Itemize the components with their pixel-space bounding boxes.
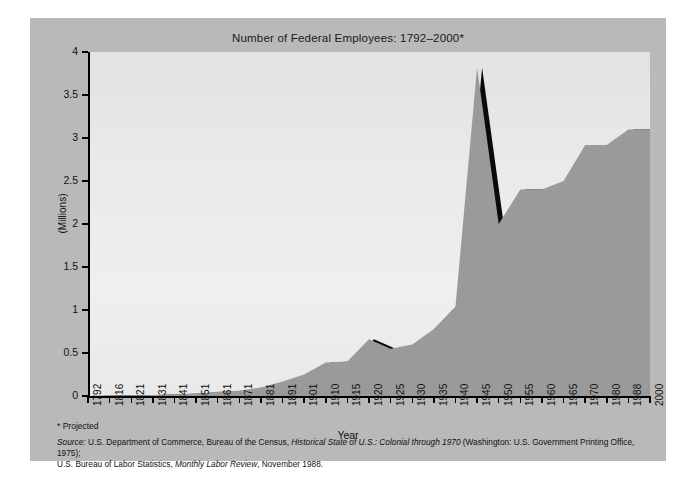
x-tick-label: 1945 <box>481 384 492 406</box>
x-tick <box>584 397 586 403</box>
x-tick-label: 1861 <box>222 384 233 406</box>
x-tick <box>455 397 457 403</box>
x-tick <box>347 397 349 403</box>
y-tick <box>82 51 88 53</box>
x-tick-label: 1881 <box>265 384 276 406</box>
x-tick-label: 1988 <box>632 384 643 406</box>
y-tick <box>82 352 88 354</box>
y-tick-label: 0 <box>38 389 78 401</box>
y-tick <box>82 223 88 225</box>
source-label: Source: <box>57 437 86 447</box>
x-tick <box>649 397 651 403</box>
x-tick-label: 1935 <box>438 384 449 406</box>
x-tick <box>109 397 111 403</box>
x-tick-label: 1831 <box>157 384 168 406</box>
source-text-d: , November 1988. <box>257 459 323 469</box>
x-tick <box>87 397 89 403</box>
x-tick-label: 1955 <box>524 384 535 406</box>
x-tick <box>239 397 241 403</box>
x-tick-label: 1910 <box>330 384 341 406</box>
chart-panel: Number of Federal Employees: 1792–2000* … <box>30 18 666 461</box>
x-tick <box>498 397 500 403</box>
x-tick <box>195 397 197 403</box>
x-tick <box>390 397 392 403</box>
x-tick-label: 1925 <box>395 384 406 406</box>
y-tick-label: 4 <box>38 45 78 57</box>
plot-area <box>88 52 650 396</box>
x-tick <box>174 397 176 403</box>
x-tick <box>282 397 284 403</box>
x-tick-label: 1980 <box>611 384 622 406</box>
chart-page: Number of Federal Employees: 1792–2000* … <box>0 0 690 484</box>
x-tick-label: 1965 <box>568 384 579 406</box>
x-tick-label: 1970 <box>589 384 600 406</box>
x-tick <box>606 397 608 403</box>
x-tick <box>412 397 414 403</box>
y-tick-label: 3 <box>38 131 78 143</box>
x-tick-label: 2000 <box>654 384 665 406</box>
y-tick <box>82 180 88 182</box>
y-axis-caption: (Millions) <box>57 179 68 249</box>
y-tick-label: 3.5 <box>38 88 78 100</box>
x-tick <box>476 397 478 403</box>
x-tick <box>563 397 565 403</box>
source-title-2: Monthly Labor Review <box>175 459 257 469</box>
x-tick <box>325 397 327 403</box>
y-tick <box>82 309 88 311</box>
y-tick-label: 0.5 <box>38 346 78 358</box>
x-tick-label: 1816 <box>114 384 125 406</box>
source-title-1: Historical State of U.S.: Colonial throu… <box>291 437 460 447</box>
chart-title: Number of Federal Employees: 1792–2000* <box>30 32 666 44</box>
y-tick-label: 1.5 <box>38 260 78 272</box>
x-tick-label: 1940 <box>459 384 470 406</box>
x-tick <box>628 397 630 403</box>
x-tick <box>303 397 305 403</box>
x-tick <box>433 397 435 403</box>
x-tick-label: 1901 <box>308 384 319 406</box>
y-axis-labels: 00.511.522.533.54 <box>30 18 78 418</box>
y-tick <box>82 94 88 96</box>
source-text-a: U.S. Department of Commerce, Bureau of t… <box>86 437 292 447</box>
x-tick-label: 1871 <box>243 384 254 406</box>
x-tick-label: 1891 <box>287 384 298 406</box>
y-tick <box>82 137 88 139</box>
source-text-c: U.S. Bureau of Labor Statistics, <box>57 459 175 469</box>
x-tick-label: 1960 <box>546 384 557 406</box>
area-series <box>88 52 650 396</box>
x-tick-label: 1930 <box>416 384 427 406</box>
source-line-1: Source: U.S. Department of Commerce, Bur… <box>57 437 657 459</box>
x-tick-label: 1915 <box>351 384 362 406</box>
x-tick <box>131 397 133 403</box>
x-tick-label: 1851 <box>200 384 211 406</box>
x-tick <box>520 397 522 403</box>
x-tick <box>217 397 219 403</box>
x-tick <box>541 397 543 403</box>
x-tick <box>368 397 370 403</box>
x-tick <box>152 397 154 403</box>
x-tick-label: 1792 <box>92 384 103 406</box>
x-tick-label: 1841 <box>178 384 189 406</box>
projected-note: * Projected <box>57 421 657 431</box>
x-tick-label: 1950 <box>503 384 514 406</box>
y-axis-line <box>88 52 90 397</box>
x-tick <box>260 397 262 403</box>
y-tick-label: 1 <box>38 303 78 315</box>
x-tick-label: 1920 <box>373 384 384 406</box>
area-fill <box>88 67 650 396</box>
footnotes: * Projected Source: U.S. Department of C… <box>57 421 657 470</box>
x-tick-label: 1821 <box>135 384 146 406</box>
y-tick <box>82 266 88 268</box>
source-line-2: U.S. Bureau of Labor Statistics, Monthly… <box>57 459 657 470</box>
